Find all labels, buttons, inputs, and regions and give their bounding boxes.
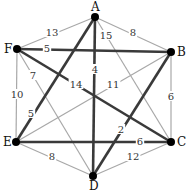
weight-label-e-c: 6 — [137, 136, 143, 147]
node-label-c: C — [177, 135, 186, 149]
node-a — [91, 13, 99, 21]
weight-label-f-d: 7 — [30, 70, 36, 81]
node-e — [12, 138, 20, 146]
node-label-a: A — [90, 0, 100, 14]
weight-label-f-c: 14 — [70, 79, 83, 90]
weight-label-f-e: 10 — [11, 89, 24, 100]
node-f — [13, 45, 21, 53]
weight-label-b-d: 2 — [118, 124, 124, 135]
weight-label-f-b: 5 — [44, 43, 50, 54]
weight-label-a-c: 15 — [100, 30, 113, 41]
edge-f-b — [17, 49, 171, 52]
weight-label-d-c: 12 — [127, 151, 140, 162]
weight-label-a-f: 13 — [46, 27, 59, 38]
weight-label-e-d: 8 — [49, 151, 55, 162]
weight-label-b-e: 11 — [107, 79, 120, 90]
node-label-f: F — [4, 42, 12, 56]
node-b — [167, 48, 175, 56]
weight-label-b-c: 6 — [168, 91, 174, 102]
node-label-b: B — [177, 45, 186, 59]
weight-label-a-d: 4 — [92, 64, 98, 75]
weight-label-a-b: 8 — [130, 27, 136, 38]
edges-layer — [16, 17, 171, 176]
weighted-graph: 138451551471011266812 ABCDEF — [0, 0, 191, 194]
node-c — [167, 138, 175, 146]
node-label-e: E — [3, 135, 12, 149]
weight-label-a-e: 5 — [28, 108, 34, 119]
node-label-d: D — [89, 179, 99, 193]
